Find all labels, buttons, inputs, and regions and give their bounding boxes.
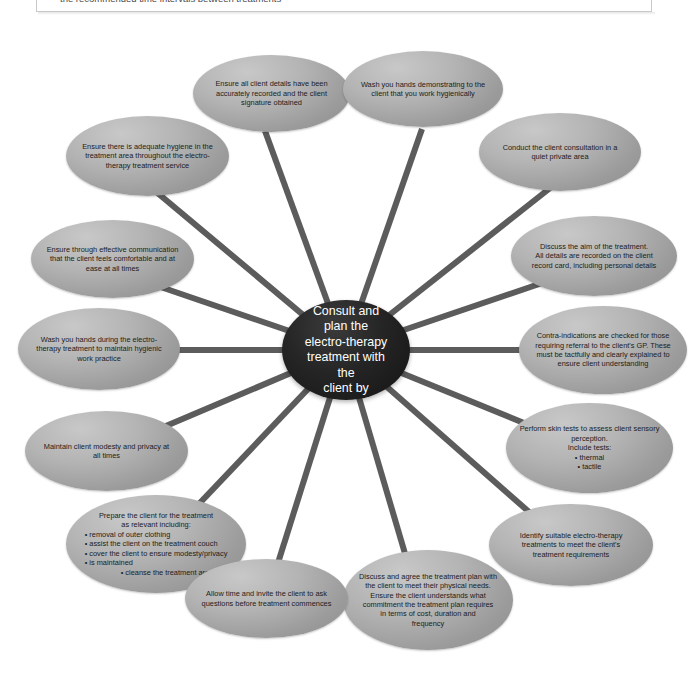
node-identify-treatments[interactable]: Identify suitable electro-therapy treatm… (489, 504, 653, 586)
node-effective-communication[interactable]: Ensure through effective communication t… (31, 220, 194, 298)
node-client-details-label: Ensure all client details have been accu… (206, 79, 337, 107)
node-contra-indications[interactable]: Contra-indications are checked for those… (519, 306, 687, 394)
node-discuss-aim-label: Discuss the aim of the treatment. All de… (524, 242, 664, 270)
node-prepare-client-bullet-2: assist the client on the treatment couch (85, 539, 228, 548)
node-client-details[interactable]: Ensure all client details have been accu… (193, 55, 350, 132)
node-allow-questions-label: Allow time and invite the client to ask … (198, 589, 335, 608)
node-prepare-client-bullet-1: removal of outer clothing (85, 530, 228, 539)
node-skin-tests[interactable]: Perform skin tests to assess client sens… (506, 403, 673, 493)
node-skin-tests-bullets: thermal tactile (575, 453, 604, 472)
node-skin-tests-bullet-tactile: tactile (575, 462, 604, 471)
node-quiet-private-area-label: Conduct the client consultation in a qui… (492, 143, 628, 162)
node-effective-communication-label: Ensure through effective communication t… (44, 245, 181, 273)
node-quiet-private-area[interactable]: Conduct the client consultation in a qui… (479, 113, 641, 191)
node-modesty-privacy[interactable]: Maintain client modesty and privacy at a… (25, 411, 188, 491)
node-prepare-client-bullet-3: cover the client to ensure modesty/priva… (85, 549, 228, 558)
top-note-bullet-text: the recommended time intervals between t… (60, 0, 281, 4)
node-adequate-hygiene[interactable]: Ensure there is adequate hygiene in the … (66, 116, 229, 196)
node-skin-tests-label: Perform skin tests to assess client sens… (519, 424, 660, 452)
node-wash-hands-demonstrate[interactable]: Wash you hands demonstrating to the clie… (343, 51, 503, 127)
top-note-box: the recommended time intervals between t… (36, 0, 652, 12)
node-adequate-hygiene-label: Ensure there is adequate hygiene in the … (79, 142, 216, 170)
node-prepare-client-bullets: removal of outer clothing assist the cli… (85, 530, 228, 568)
node-prepare-client-bullet-3-cont: is maintained (85, 558, 228, 567)
node-modesty-privacy-label: Maintain client modesty and privacy at a… (38, 442, 175, 461)
top-note-box-shadow (38, 12, 655, 15)
node-contra-indications-label: Contra-indications are checked for those… (532, 331, 674, 369)
center-node-label: Consult and plan the electro-therapy tre… (300, 304, 392, 397)
node-allow-questions[interactable]: Allow time and invite the client to ask … (185, 559, 348, 638)
node-prepare-client-label: Prepare the client for the treatment as … (76, 511, 236, 530)
node-wash-hands-during-label: Wash you hands during the electro- thera… (31, 335, 167, 363)
node-skin-tests-bullet-thermal: thermal (575, 453, 604, 462)
page-root: the recommended time intervals between t… (0, 0, 690, 683)
spider-diagram: Consult and plan the electro-therapy tre… (0, 18, 690, 683)
node-discuss-aim[interactable]: Discuss the aim of the treatment. All de… (511, 216, 677, 296)
node-wash-hands-demonstrate-label: Wash you hands demonstrating to the clie… (356, 80, 490, 99)
top-note-bullet-row: the recommended time intervals between t… (49, 0, 281, 4)
node-treatment-plan[interactable]: Discuss and agree the treatment plan wit… (343, 550, 513, 650)
node-identify-treatments-label: Identify suitable electro-therapy treatm… (502, 531, 640, 559)
node-treatment-plan-label: Discuss and agree the treatment plan wit… (356, 572, 500, 628)
node-wash-hands-during[interactable]: Wash you hands during the electro- thera… (18, 308, 180, 390)
center-node[interactable]: Consult and plan the electro-therapy tre… (282, 300, 410, 400)
